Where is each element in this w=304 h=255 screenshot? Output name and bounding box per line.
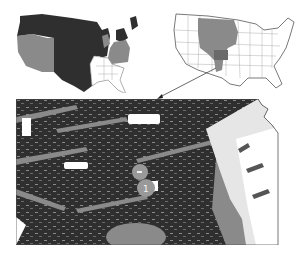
kansas-landcover-svg: 1 xyxy=(16,99,290,245)
kansas-landcover-map: 1 xyxy=(16,99,290,245)
patch xyxy=(128,114,160,124)
patch xyxy=(64,162,88,169)
patch xyxy=(22,118,31,136)
site-marker-label: 1 xyxy=(143,184,149,194)
